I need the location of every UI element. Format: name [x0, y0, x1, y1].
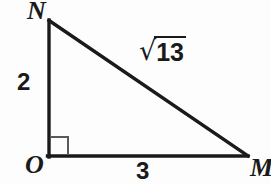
- vertex-label-O: O: [25, 152, 44, 178]
- side-length-label-NM: √ 13: [139, 36, 186, 65]
- side-length-label-OM: 3: [136, 159, 149, 183]
- radical-sign-icon: √: [139, 37, 156, 64]
- right-angle-marker-icon: [50, 137, 68, 155]
- radicand-value: 13: [154, 36, 186, 65]
- vertex-label-M: M: [250, 155, 271, 181]
- vertex-label-N: N: [27, 0, 46, 24]
- side-length-label-NO: 2: [17, 70, 30, 94]
